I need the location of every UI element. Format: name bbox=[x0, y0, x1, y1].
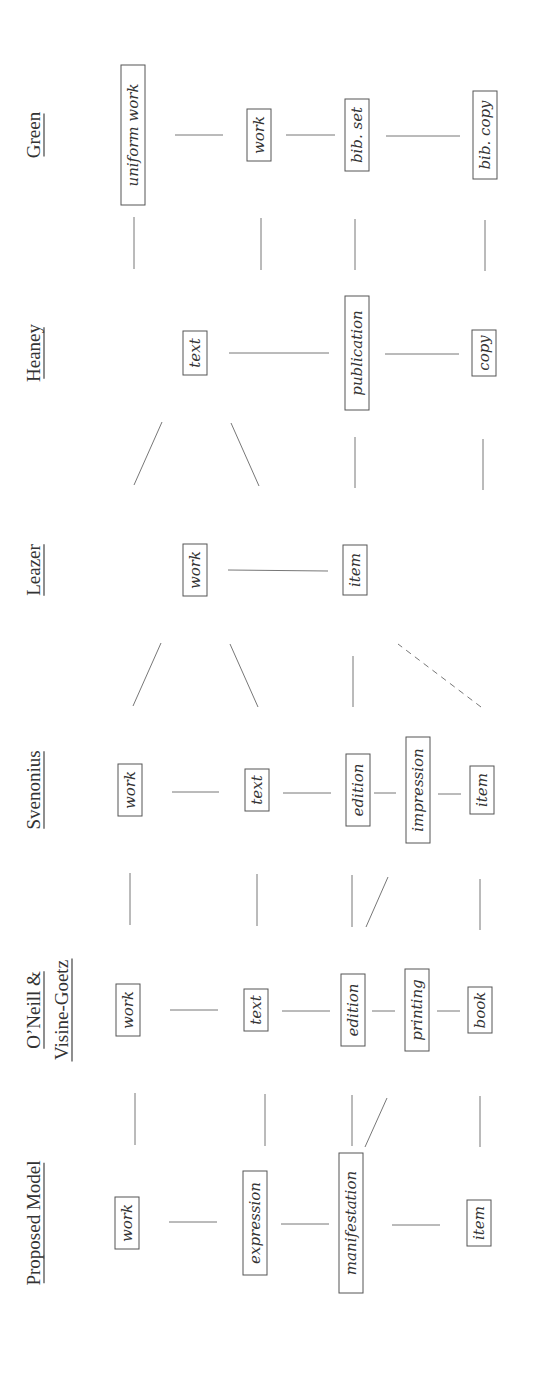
entity-box: edition bbox=[341, 974, 365, 1046]
model-column-svenonius: Svenoniusworktexteditionimpressionitem bbox=[23, 737, 494, 843]
entity-model-comparison-diagram: Greenuniform workworkbib. setbib. copyHe… bbox=[0, 0, 542, 1380]
entity-box: expression bbox=[243, 1171, 267, 1275]
entity-box: impression bbox=[406, 737, 430, 843]
entity-label: edition bbox=[344, 984, 362, 1037]
model-column-leazer: Leazerworkitem bbox=[23, 543, 367, 596]
connector-line bbox=[366, 877, 388, 927]
model-header: Leazer bbox=[23, 543, 44, 595]
entity-label: bib. set bbox=[348, 106, 366, 163]
model-header: O’Neill & bbox=[23, 971, 44, 1049]
entity-label: copy bbox=[475, 335, 493, 371]
entity-box: edition bbox=[346, 754, 370, 826]
entity-box: bib. set bbox=[345, 99, 369, 171]
entity-label: impression bbox=[409, 748, 427, 832]
entity-box: work bbox=[118, 764, 142, 816]
entity-label: expression bbox=[246, 1182, 264, 1264]
model-header: Visine-Goetz bbox=[51, 960, 72, 1060]
entity-label: printing bbox=[408, 979, 426, 1040]
connector-line bbox=[365, 1098, 387, 1147]
entity-box: bib. copy bbox=[473, 91, 497, 179]
model-header: Svenonius bbox=[23, 750, 44, 829]
entity-box: text bbox=[245, 769, 269, 811]
model-column-heaney: Heaneytextpublicationcopy bbox=[23, 296, 496, 410]
entity-box: manifestation bbox=[339, 1153, 363, 1293]
connector-line bbox=[134, 422, 162, 485]
entity-label: bib. copy bbox=[476, 100, 494, 170]
connector-line bbox=[230, 644, 258, 707]
entity-box: text bbox=[183, 331, 207, 375]
entity-label: work bbox=[186, 551, 204, 589]
entity-box: work bbox=[115, 1197, 139, 1249]
model-header: Proposed Model bbox=[23, 1160, 44, 1285]
model-column-oneill: O’Neill &Visine-Goetzworktexteditionprin… bbox=[23, 958, 492, 1061]
entity-label: work bbox=[118, 1204, 136, 1242]
model-header: Heaney bbox=[23, 323, 44, 382]
model-header: Green bbox=[23, 111, 44, 158]
entity-box: item bbox=[470, 766, 494, 814]
entity-label: work bbox=[250, 116, 268, 154]
entity-box: work bbox=[183, 544, 207, 596]
model-column-green: Greenuniform workworkbib. setbib. copy bbox=[23, 65, 497, 205]
entity-box: uniform work bbox=[121, 65, 145, 205]
connector-line bbox=[133, 643, 161, 706]
entity-label: item bbox=[346, 553, 364, 587]
connector-line bbox=[231, 423, 259, 486]
dashed-connector-line bbox=[398, 644, 481, 707]
entity-box: printing bbox=[405, 969, 429, 1051]
entity-box: work bbox=[116, 984, 140, 1036]
entity-label: work bbox=[121, 771, 139, 809]
entity-label: text bbox=[248, 774, 266, 804]
model-column-proposed: Proposed Modelworkexpressionmanifestatio… bbox=[23, 1153, 491, 1293]
entity-label: text bbox=[247, 994, 265, 1024]
entity-box: work bbox=[247, 109, 271, 161]
entity-box: book bbox=[468, 987, 492, 1033]
model-columns: Greenuniform workworkbib. setbib. copyHe… bbox=[23, 65, 497, 1293]
entity-label: text bbox=[186, 337, 204, 367]
entity-label: work bbox=[119, 991, 137, 1029]
entity-label: item bbox=[473, 773, 491, 807]
entity-box: publication bbox=[345, 296, 369, 410]
entity-label: uniform work bbox=[124, 84, 142, 187]
entity-box: text bbox=[244, 989, 268, 1031]
entity-label: edition bbox=[349, 764, 367, 817]
entity-label: item bbox=[470, 1206, 488, 1240]
entity-label: manifestation bbox=[342, 1171, 360, 1275]
entity-box: item bbox=[343, 545, 367, 595]
entity-box: copy bbox=[472, 330, 496, 376]
entity-label: publication bbox=[348, 310, 366, 395]
entity-box: item bbox=[467, 1200, 491, 1246]
entity-label: book bbox=[471, 992, 489, 1029]
connector-line bbox=[228, 570, 328, 571]
